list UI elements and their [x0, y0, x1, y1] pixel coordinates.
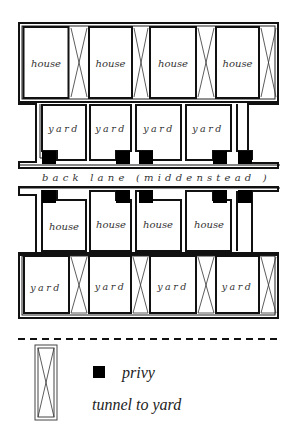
- yard-bottom-3-label: yard: [156, 281, 189, 292]
- yard-bottom-1-label: yard: [29, 282, 62, 293]
- privy-upper-1: [42, 151, 56, 164]
- house-lower-2-label: house: [96, 219, 126, 230]
- tunnel-top-3: [198, 28, 214, 97]
- yard-bottom-2-label: yard: [94, 281, 127, 292]
- top-row-block: house house house house: [19, 23, 278, 102]
- privy-upper-5: [238, 151, 252, 164]
- house-top-1-label: house: [31, 58, 61, 69]
- privy-upper-4: [213, 151, 227, 164]
- privy-upper-2: [116, 151, 130, 164]
- tunnel-bottom-1: [71, 257, 87, 313]
- yard-bottom-4-label: yard: [221, 281, 254, 292]
- privy-upper-3: [139, 151, 153, 164]
- terrace-housing-diagram: house house house house yard yard yard y…: [0, 0, 293, 434]
- legend-privy-label: privy: [121, 364, 156, 382]
- house-lower-1-label: house: [49, 221, 79, 232]
- legend-tunnel-label: tunnel to yard: [92, 396, 182, 414]
- tunnel-bottom-4: [261, 257, 276, 313]
- yard-upper-1-label: yard: [47, 123, 80, 134]
- legend: privy tunnel to yard: [35, 345, 182, 420]
- tunnel-bottom-3: [198, 257, 214, 313]
- yard-upper-3-label: yard: [142, 123, 175, 134]
- legend-privy-icon: [93, 366, 105, 378]
- back-lane-label: back lane (middenstead ): [42, 172, 271, 183]
- tunnel-bottom-2: [133, 257, 148, 313]
- house-lower-3-label: house: [143, 219, 173, 230]
- tunnel-top-4: [261, 28, 276, 97]
- upper-yards-block: yard yard yard yard: [19, 102, 278, 168]
- privy-lower-5: [238, 190, 252, 203]
- privy-lower-3: [139, 190, 153, 203]
- tunnel-top-1: [71, 28, 87, 97]
- house-top-3-label: house: [158, 58, 188, 69]
- bottom-row-block: yard yard yard yard: [19, 253, 278, 318]
- tunnel-top-2: [134, 28, 148, 97]
- lower-houses-block: house house house house: [19, 187, 278, 255]
- house-lower-4-label: house: [194, 219, 224, 230]
- privy-lower-1: [42, 190, 56, 203]
- yard-upper-4-label: yard: [191, 123, 224, 134]
- house-top-4-label: house: [223, 58, 253, 69]
- privy-lower-2: [116, 190, 130, 203]
- house-top-2-label: house: [96, 58, 126, 69]
- privy-lower-4: [213, 190, 227, 203]
- legend-tunnel-icon: [35, 345, 57, 420]
- yard-upper-2-label: yard: [94, 123, 127, 134]
